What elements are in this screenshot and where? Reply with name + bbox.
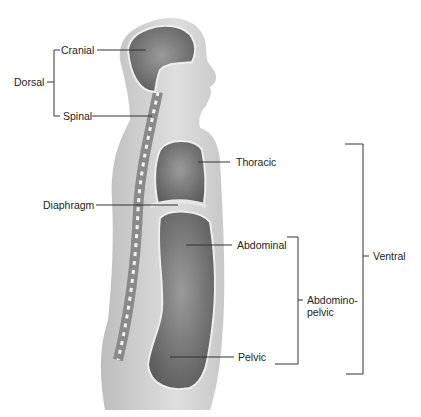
label-abdominopelvic-1: Abdomino-: [307, 294, 358, 306]
label-thoracic: Thoracic: [236, 156, 276, 168]
label-spinal: Spinal: [63, 110, 92, 122]
label-dorsal: Dorsal: [14, 76, 44, 88]
label-abdominopelvic-2: pelvic: [307, 306, 334, 318]
label-ventral: Ventral: [373, 250, 406, 262]
label-pelvic: Pelvic: [238, 351, 266, 363]
label-cranial: Cranial: [61, 44, 94, 56]
thoracic-cavity: [155, 141, 205, 205]
body-cavities-diagram: Cranial Dorsal Spinal Thoracic Diaphragm…: [0, 0, 421, 417]
label-diaphragm: Diaphragm: [43, 199, 94, 211]
label-abdominal: Abdominal: [237, 239, 287, 251]
